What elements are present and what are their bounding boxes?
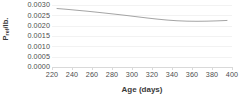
x-axis-tick-label: 360	[186, 70, 198, 79]
y-axis-tick-label: 0.0010	[27, 43, 50, 50]
series-line-group	[52, 5, 232, 67]
x-axis-tick-label: 400	[226, 70, 238, 79]
x-axis-tick-label: 340	[166, 70, 178, 79]
x-axis-tick-labels: 220240260280300320340360380400	[52, 70, 232, 80]
series-line-pref-per-lb	[57, 9, 227, 22]
x-axis-tick-label: 240	[66, 70, 78, 79]
y-axis-tick-labels: 0.00300.00250.00200.00150.00100.00050.00…	[19, 0, 50, 70]
line-chart: Pref/lb. 0.00300.00250.00200.00150.00100…	[0, 0, 242, 103]
x-axis-title: Age (days)	[52, 85, 232, 94]
x-axis-tick-label: 220	[46, 70, 58, 79]
y-axis-tick-label: 0.0015	[27, 32, 50, 39]
x-axis-tick-label: 260	[86, 70, 98, 79]
plot-area	[52, 5, 232, 67]
y-axis-title-tail: /lb.	[1, 18, 10, 29]
y-axis-title: Pref/lb.	[1, 5, 15, 53]
x-axis-tick-label: 380	[206, 70, 218, 79]
x-axis-tick-label: 280	[106, 70, 118, 79]
x-axis-tick-label: 300	[126, 70, 138, 79]
y-axis-title-subscript: ref	[4, 29, 10, 36]
y-axis-tick-label: 0.0025	[27, 12, 50, 19]
y-axis-tick-label: 0.0030	[27, 1, 50, 8]
x-axis-tick-label: 320	[146, 70, 158, 79]
y-axis-tick-label: 0.0020	[27, 22, 50, 29]
y-axis-title-base: P	[1, 35, 10, 40]
y-axis-tick-label: 0.0005	[27, 53, 50, 60]
